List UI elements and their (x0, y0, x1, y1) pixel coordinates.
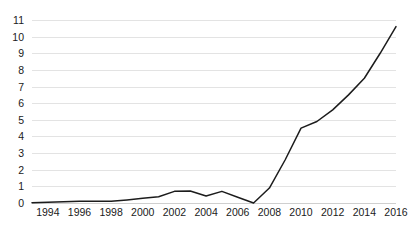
x-tick-label-2010: 2010 (289, 206, 312, 218)
y-axis-tick-labels: 01234567891011 (0, 20, 28, 203)
y-tick-label-3: 3 (0, 148, 24, 159)
data-series-layer (32, 20, 396, 203)
y-tick-label-6: 6 (0, 98, 24, 109)
x-tick-label-1996: 1996 (68, 206, 91, 218)
x-tick-label-2008: 2008 (258, 206, 281, 218)
x-tick-label-2012: 2012 (321, 206, 344, 218)
y-tick-label-4: 4 (0, 131, 24, 142)
gridline-y-0 (32, 203, 396, 204)
y-tick-label-10: 10 (0, 31, 24, 42)
x-tick-label-2002: 2002 (163, 206, 186, 218)
y-tick-label-7: 7 (0, 81, 24, 92)
x-tick-label-2004: 2004 (194, 206, 217, 218)
x-axis-tick-labels: 1994199619982000200220042006200820102012… (32, 206, 396, 226)
x-tick-label-1998: 1998 (99, 206, 122, 218)
x-tick-label-2014: 2014 (353, 206, 376, 218)
x-tick-label-2000: 2000 (131, 206, 154, 218)
x-tick-label-2006: 2006 (226, 206, 249, 218)
series-1-line (32, 27, 396, 203)
plot-area (32, 20, 396, 203)
y-tick-label-2: 2 (0, 164, 24, 175)
y-tick-label-1: 1 (0, 181, 24, 192)
y-tick-label-5: 5 (0, 114, 24, 125)
y-tick-label-0: 0 (0, 198, 24, 209)
line-chart: 01234567891011 1994199619982000200220042… (0, 0, 416, 235)
y-tick-label-8: 8 (0, 64, 24, 75)
x-tick-label-2016: 2016 (384, 206, 407, 218)
y-tick-label-11: 11 (0, 15, 24, 26)
y-tick-label-9: 9 (0, 48, 24, 59)
x-tick-label-1994: 1994 (36, 206, 59, 218)
